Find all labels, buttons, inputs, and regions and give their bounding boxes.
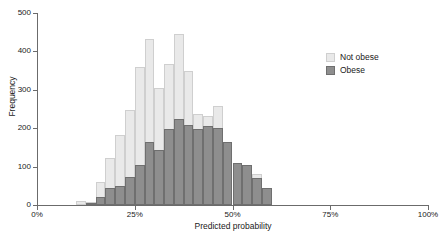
x-tick-label: 50%: [224, 211, 240, 219]
x-tick-label: 0%: [31, 211, 43, 219]
chart-legend: Not obeseObese: [326, 52, 379, 75]
x-tick-label: 25%: [127, 211, 143, 219]
legend-item-label: Obese: [340, 66, 365, 75]
histogram-bar: [213, 128, 223, 205]
legend-swatch-icon: [326, 53, 335, 62]
histogram-bar: [154, 150, 164, 205]
histogram-bar: [145, 142, 155, 205]
x-axis-title: Predicted probability: [37, 222, 429, 231]
y-tick-label-wrap: 0: [0, 201, 31, 209]
y-axis-title: Frequency: [8, 52, 17, 142]
histogram-bar: [76, 201, 86, 205]
y-tick-label-wrap: 100: [0, 163, 31, 171]
histogram-bar: [223, 142, 233, 205]
histogram-bar: [105, 188, 115, 205]
x-tick-label: 100%: [418, 211, 438, 219]
plot-area: [37, 13, 428, 205]
histogram-chart: 0100200300400500 Frequency 0%25%50%75%10…: [0, 0, 445, 238]
histogram-bar: [164, 129, 174, 205]
legend-swatch-icon: [326, 66, 335, 75]
histogram-bar: [233, 163, 243, 205]
legend-item-label: Not obese: [340, 53, 379, 62]
histogram-bar: [242, 165, 252, 205]
y-tick-label: 0: [5, 201, 31, 209]
legend-item-not-obese[interactable]: Not obese: [326, 52, 379, 62]
y-tick-label-wrap: 500: [0, 9, 31, 17]
histogram-bar: [203, 126, 213, 205]
histogram-bar: [135, 165, 145, 205]
histogram-bar: [96, 197, 106, 205]
histogram-bar: [174, 119, 184, 205]
x-tick-label: 75%: [322, 211, 338, 219]
histogram-bar: [252, 178, 262, 205]
y-tick-label: 500: [5, 9, 31, 17]
histogram-bar: [262, 188, 272, 205]
histogram-bar: [125, 177, 135, 205]
histogram-bar: [86, 203, 96, 205]
histogram-bar: [193, 129, 203, 205]
histogram-bar: [115, 186, 125, 205]
y-tick-label: 100: [5, 163, 31, 171]
legend-item-obese[interactable]: Obese: [326, 65, 379, 75]
histogram-bar: [184, 125, 194, 205]
